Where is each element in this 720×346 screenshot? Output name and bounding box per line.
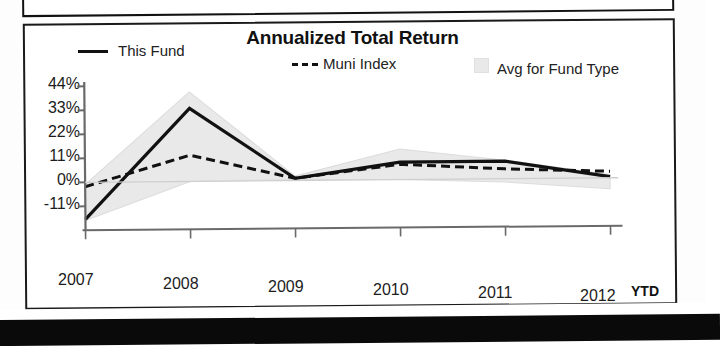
page-edge-black-bar — [0, 314, 720, 346]
avg-fund-type-band — [84, 88, 610, 220]
y-axis-line — [84, 82, 85, 230]
x-axis-line — [83, 226, 623, 231]
